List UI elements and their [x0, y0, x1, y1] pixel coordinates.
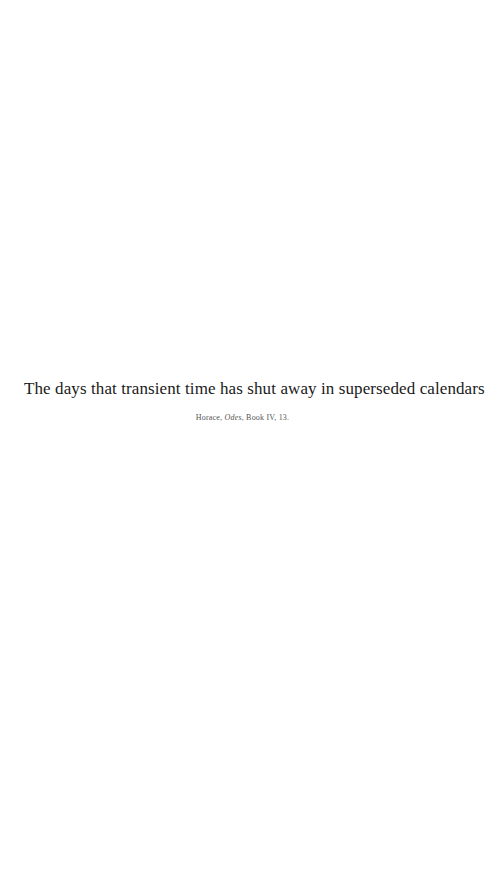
- quotation-page: The days that transient time has shut aw…: [0, 0, 485, 876]
- attribution-locus: , Book IV, 13.: [242, 413, 290, 422]
- attribution-author: Horace,: [196, 413, 223, 422]
- attribution-work-title: Odes: [224, 413, 241, 422]
- quotation-text: The days that transient time has shut aw…: [24, 377, 461, 401]
- quotation-attribution: Horace, Odes, Book IV, 13.: [24, 412, 461, 423]
- quotation-block: The days that transient time has shut aw…: [0, 377, 485, 431]
